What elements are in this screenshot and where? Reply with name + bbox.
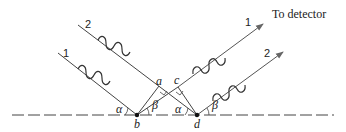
right-angle-c — [176, 91, 183, 95]
diffraction-diagram: 1 2 1 2 To detector a c b d α β α β — [0, 0, 346, 132]
label-beta-right: β — [211, 98, 218, 112]
label-alpha-right: α — [175, 102, 182, 116]
label-a: a — [156, 74, 162, 88]
label-alpha-left: α — [116, 102, 123, 116]
label-d: d — [194, 117, 201, 131]
arc-beta-right — [207, 108, 209, 115]
arc-alpha-left — [125, 108, 128, 115]
label-in-1: 1 — [63, 47, 69, 59]
label-out-2: 2 — [264, 47, 270, 59]
label-in-2: 2 — [85, 18, 91, 30]
arc-alpha-right — [185, 108, 188, 115]
incident-ray-1 — [58, 53, 137, 115]
wave-out-1 — [193, 58, 225, 74]
label-b: b — [134, 117, 140, 131]
diffracted-ray-1-ext — [178, 24, 263, 87]
to-detector-label: To detector — [272, 7, 326, 21]
label-c: c — [174, 73, 180, 87]
label-beta-left: β — [151, 98, 158, 112]
arc-beta-left — [147, 108, 149, 115]
label-out-1: 1 — [245, 16, 251, 28]
